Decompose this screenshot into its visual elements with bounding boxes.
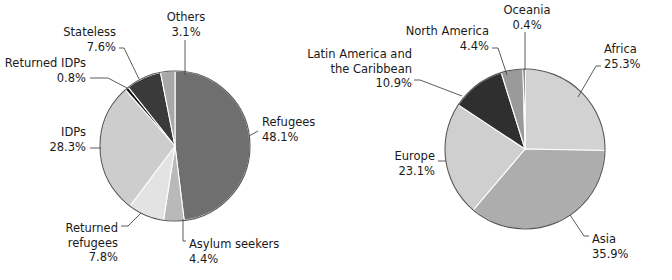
slice-name-text: North America <box>406 24 489 38</box>
slice-value-text: 7.8% <box>89 250 118 264</box>
slice-name-text: Refugees <box>262 115 315 129</box>
slice-value-text: 3.1% <box>171 25 200 39</box>
slice-name-text: refugees <box>68 236 118 250</box>
slice-value-text: 35.9% <box>592 247 629 261</box>
callout-leader-line <box>183 219 186 241</box>
slice-callout-label: Asia35.9% <box>592 232 629 261</box>
slice-name-text: Stateless <box>63 25 116 39</box>
slice-callout-label: Latin America andthe Caribbean10.9% <box>307 47 412 90</box>
slice-callout-label: IDPs28.3% <box>49 125 86 154</box>
slice-name-text: Asia <box>592 232 616 246</box>
slice-name-text: Europe <box>395 149 435 163</box>
slice-value-text: 0.8% <box>57 71 86 85</box>
slice-name-text: Africa <box>604 42 637 56</box>
slice-callout-label: Returnedrefugees7.8% <box>65 221 118 264</box>
slice-value-text: 28.3% <box>49 140 86 154</box>
slice-value-text: 0.4% <box>512 18 541 32</box>
slice-callout-label: Europe23.1% <box>395 149 436 178</box>
slice-callout-label: Asylum seekers4.4% <box>189 237 279 266</box>
pie-charts-figure: Refugees 48.1%Asylum seekers 4.4%Returne… <box>0 0 672 280</box>
callout-leader-line <box>414 80 462 96</box>
slice-callout-label: Returned IDPs0.8% <box>5 56 86 85</box>
pie-slice[interactable]: Refugees 48.1% <box>175 71 250 220</box>
slice-name-text: Oceania <box>503 3 550 17</box>
slice-value-text: 4.4% <box>189 252 218 266</box>
slice-name-text: Returned <box>65 221 118 235</box>
slice-value-text: 7.6% <box>87 40 116 54</box>
slice-value-text: 48.1% <box>262 130 299 144</box>
callout-leader-line <box>570 215 589 236</box>
callout-leader-line <box>249 131 258 136</box>
population-of-concern-by-category: Refugees 48.1%Asylum seekers 4.4%Returne… <box>5 10 316 266</box>
slice-callout-label: Africa25.3% <box>604 42 641 71</box>
slice-name-text: Latin America and <box>307 47 412 61</box>
pie-slice[interactable]: Africa 25.3% <box>525 69 605 151</box>
slice-value-text: 4.4% <box>460 39 489 53</box>
slice-callout-label: Refugees48.1% <box>262 115 315 144</box>
slice-callout-label: North America4.4% <box>406 24 489 53</box>
slice-name-text: Others <box>167 10 206 24</box>
slice-name-text: Asylum seekers <box>189 237 279 251</box>
figure-canvas: Refugees 48.1%Asylum seekers 4.4%Returne… <box>0 0 672 280</box>
slice-value-text: 10.9% <box>375 76 412 90</box>
slice-callout-label: Oceania0.4% <box>503 3 550 32</box>
slice-name-text: IDPs <box>61 125 86 139</box>
slice-callout-label: Stateless7.6% <box>63 25 116 54</box>
callout-leader-line <box>492 48 507 75</box>
slice-name-text: the Caribbean <box>330 62 412 76</box>
slice-value-text: 23.1% <box>398 164 435 178</box>
slice-name-text: Returned IDPs <box>5 56 86 70</box>
callout-leader-line <box>121 213 141 226</box>
slice-callout-label: Others3.1% <box>167 10 206 39</box>
population-of-concern-by-region: Africa 25.3%Asia 35.9%Europe 23.1%Latin … <box>307 3 640 261</box>
slice-value-text: 25.3% <box>604 57 641 71</box>
callout-leader-line <box>119 48 139 79</box>
callout-leader-line <box>90 78 127 88</box>
